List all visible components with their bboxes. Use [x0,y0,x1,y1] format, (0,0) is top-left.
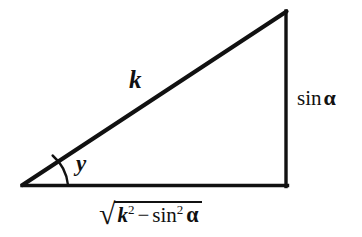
vertical-leg-alpha-symbol: α [322,85,336,110]
radicand-minus-sign: − [134,203,152,227]
vertical-leg-label: sinα [297,87,336,109]
vertical-leg-sin-text: sin [297,86,322,110]
angle-label: y [76,152,86,175]
hypotenuse-label: k [129,67,142,92]
radical-icon: √ [99,202,115,227]
base-label: √k2−sin2α [99,200,202,225]
triangle-hypotenuse-line [23,12,287,186]
radicand-expression: k2−sin2α [114,201,201,226]
radicand-alpha-symbol: α [183,202,198,227]
radicand-sin-text: sin [152,203,177,227]
triangle-figure: k y sinα √k2−sin2α [0,0,362,237]
radicand-k-symbol: k [117,203,128,227]
